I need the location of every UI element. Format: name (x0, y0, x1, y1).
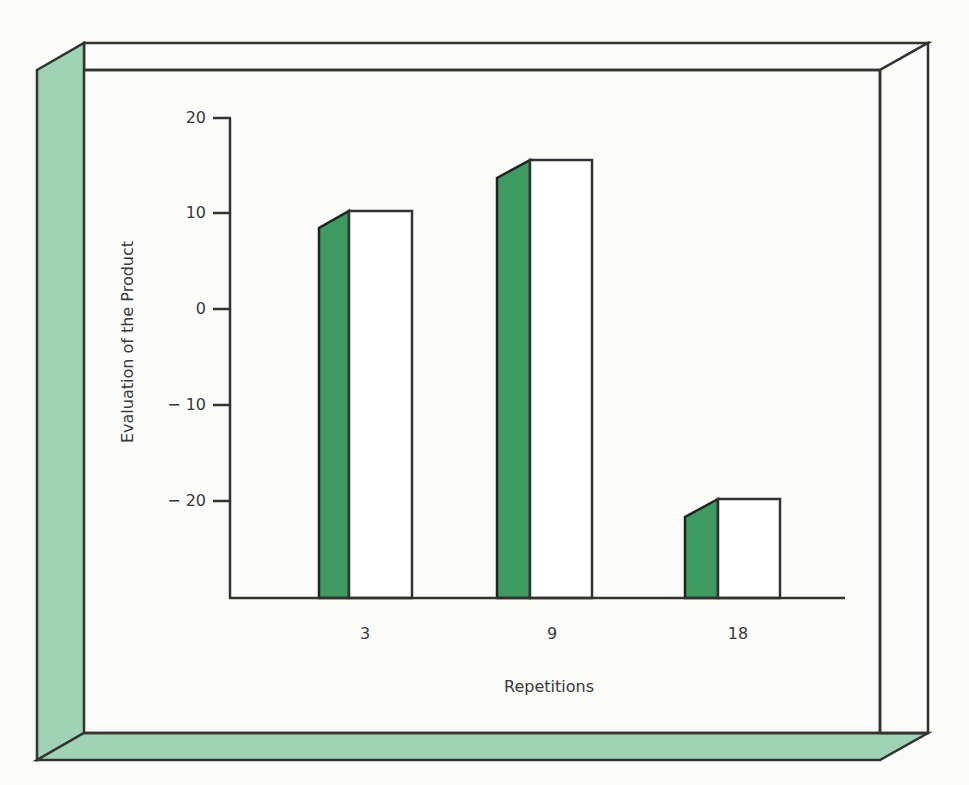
bar-front-face (718, 499, 780, 598)
frame-left-panel (37, 43, 84, 760)
y-tick-label: 20 (146, 109, 206, 127)
y-axis (213, 118, 231, 599)
bar-front-face (349, 211, 412, 598)
bar-18-repetitions (685, 499, 780, 598)
y-tick-label: 0 (146, 300, 206, 318)
bar-side-face (685, 499, 718, 598)
y-axis-title: Evaluation of the Product (119, 182, 137, 502)
frame-bottom-panel (37, 733, 928, 760)
frame-right-panel (880, 43, 928, 733)
frame-top-panel (84, 43, 928, 70)
x-category-label: 3 (335, 625, 395, 643)
bar-3-repetitions (319, 211, 412, 598)
bar-side-face (497, 160, 530, 598)
y-tick-label: − 10 (146, 396, 206, 414)
bar-9-repetitions (497, 160, 592, 598)
bar-front-face (530, 160, 592, 598)
y-tick-label: 10 (146, 204, 206, 222)
bar-side-face (319, 211, 349, 598)
y-tick-label: − 20 (146, 492, 206, 510)
x-axis-title: Repetitions (449, 677, 649, 696)
x-category-label: 18 (708, 625, 768, 643)
x-category-label: 9 (522, 625, 582, 643)
